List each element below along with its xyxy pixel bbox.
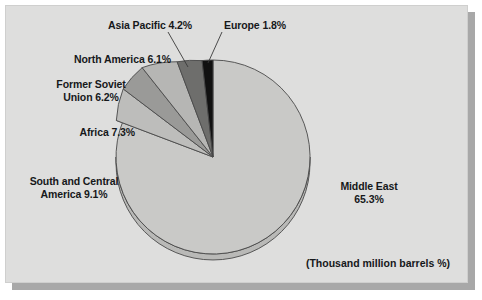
- panel-shadow-bottom: [12, 283, 475, 290]
- pie-label-north-america: North America 6.1%: [21, 53, 171, 66]
- panel-shadow-right: [468, 12, 475, 289]
- pie-label-south-and-central-america: South and Central America 9.1%: [5, 175, 143, 200]
- pie-chart-canvas: [5, 5, 468, 283]
- pie-label-middle-east: Middle East 65.3%: [315, 180, 423, 205]
- pie-chart-figure: Asia Pacific 4.2% Europe 1.8% North Amer…: [5, 5, 468, 283]
- pie-label-africa: Africa 7.3%: [5, 126, 135, 139]
- pie-label-asia-pacific: Asia Pacific 4.2%: [83, 19, 217, 32]
- pie-label-europe: Europe 1.8%: [224, 19, 334, 32]
- chart-caption: (Thousand million barrels %): [306, 257, 450, 269]
- pie-label-former-soviet-union: Former Soviet Union 6.2%: [29, 78, 153, 103]
- leader-line-europe: [208, 32, 222, 63]
